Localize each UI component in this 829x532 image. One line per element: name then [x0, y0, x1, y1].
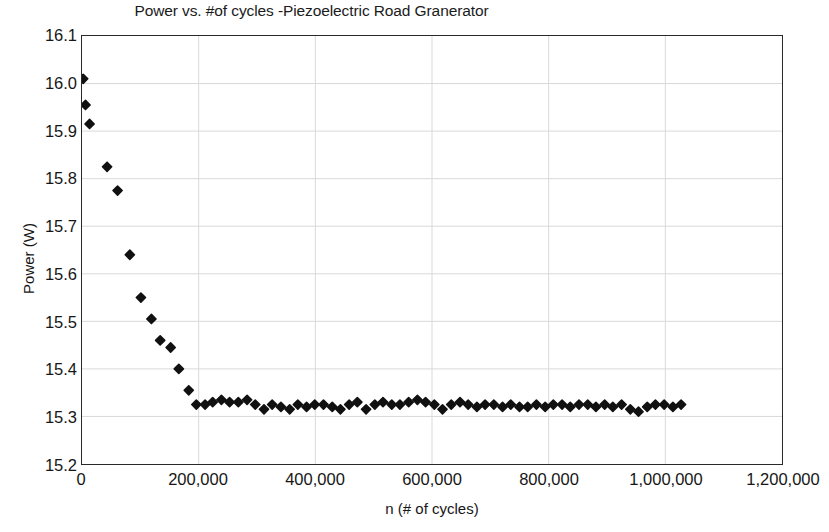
data-point [85, 119, 94, 128]
data-point [413, 395, 422, 404]
y-axis-tick-label: 15.4 [3, 360, 77, 379]
data-point [361, 405, 370, 414]
data-point [225, 398, 234, 407]
grid-lines [82, 36, 782, 464]
data-point [489, 400, 498, 409]
data-point [147, 314, 156, 323]
data-point [660, 400, 669, 409]
y-axis-tick-label: 15.5 [3, 312, 77, 331]
y-axis-tick-label: 16.1 [3, 26, 77, 45]
data-point [113, 186, 122, 195]
x-axis-tick-label: 0 [76, 470, 85, 489]
x-axis-tick-label: 1,000,000 [629, 470, 702, 489]
data-point [557, 400, 566, 409]
data-point-group [82, 74, 686, 416]
data-point [634, 407, 643, 416]
data-point [574, 400, 583, 409]
data-point [184, 386, 193, 395]
data-point [617, 400, 626, 409]
y-axis-tick-label: 15.2 [3, 456, 77, 475]
data-point [395, 400, 404, 409]
data-point [591, 402, 600, 411]
data-point [421, 398, 430, 407]
data-point [498, 402, 507, 411]
data-point [668, 402, 677, 411]
x-axis-tick-label: 800,000 [519, 470, 579, 489]
y-axis-tick-label: 15.6 [3, 264, 77, 283]
data-point [430, 400, 439, 409]
data-point [174, 364, 183, 373]
y-axis-tick-labels: 15.215.315.415.515.615.715.815.916.016.1 [0, 0, 77, 532]
data-point [217, 395, 226, 404]
x-axis-tick-label: 1,200,000 [746, 470, 819, 489]
data-point [156, 336, 165, 345]
data-point [480, 400, 489, 409]
y-axis-tick-label: 15.9 [3, 121, 77, 140]
x-axis-title: n (# of cycles) [81, 500, 783, 517]
data-point [251, 400, 260, 409]
y-axis-tick-label: 16.0 [3, 73, 77, 92]
data-point [192, 400, 201, 409]
data-point [455, 398, 464, 407]
data-point [102, 162, 111, 171]
y-axis-tick-label: 15.7 [3, 217, 77, 236]
data-point [242, 395, 251, 404]
plot-area [81, 35, 783, 465]
data-point [472, 402, 481, 411]
data-point [319, 400, 328, 409]
y-axis-tick-label: 15.3 [3, 408, 77, 427]
data-point [370, 400, 379, 409]
data-point [345, 400, 354, 409]
x-axis-tick-label: 600,000 [402, 470, 462, 489]
data-point [676, 400, 685, 409]
data-point [125, 250, 134, 259]
data-point [82, 74, 88, 83]
data-point [166, 343, 175, 352]
data-point [285, 405, 294, 414]
data-point [566, 402, 575, 411]
data-point [626, 405, 635, 414]
data-point [378, 398, 387, 407]
data-point [336, 405, 345, 414]
data-point [259, 405, 268, 414]
scatter-plot-svg [82, 36, 782, 464]
data-point [293, 400, 302, 409]
data-point [532, 400, 541, 409]
data-point [523, 402, 532, 411]
data-point [549, 400, 558, 409]
data-point [506, 400, 515, 409]
data-point [643, 402, 652, 411]
data-point [651, 400, 660, 409]
x-axis-tick-label: 400,000 [285, 470, 345, 489]
x-axis-tick-label: 200,000 [168, 470, 228, 489]
data-point [302, 402, 311, 411]
data-point [310, 400, 319, 409]
chart-figure: Power vs. #of cycles -Piezoelectric Road… [0, 0, 829, 532]
data-point [276, 402, 285, 411]
data-point [328, 402, 337, 411]
data-point [600, 400, 609, 409]
data-point [234, 398, 243, 407]
data-point [268, 400, 277, 409]
data-point [608, 402, 617, 411]
data-point [447, 400, 456, 409]
data-point [353, 398, 362, 407]
data-point [136, 293, 145, 302]
y-axis-tick-label: 15.8 [3, 169, 77, 188]
data-point [583, 400, 592, 409]
data-point [464, 400, 473, 409]
chart-title: Power vs. #of cycles -Piezoelectric Road… [0, 2, 726, 20]
data-point [438, 405, 447, 414]
data-point [82, 100, 90, 109]
data-point [404, 398, 413, 407]
